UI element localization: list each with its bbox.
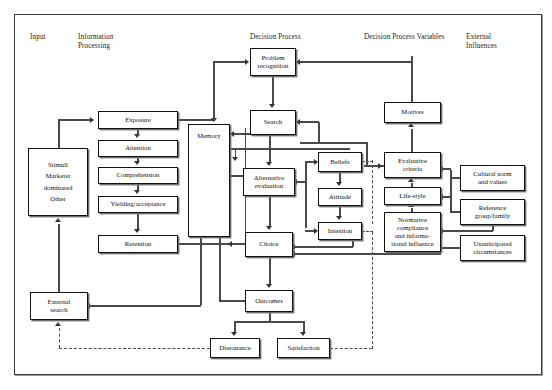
node-unanticipated-circumstances[interactable]: Unanticipated circumstances bbox=[460, 235, 525, 261]
node-outcomes-label: Outcomes bbox=[255, 297, 283, 305]
node-dissonance[interactable]: Dissonance bbox=[210, 338, 260, 358]
line-memory-to-problem-recognition bbox=[213, 62, 214, 120]
arrow-stimuli-to-exposure bbox=[90, 117, 94, 123]
node-retention[interactable]: Retention bbox=[98, 235, 178, 253]
node-alternative-evaluation[interactable]: Alternative evaluation bbox=[243, 168, 295, 196]
node-reference-group-family[interactable]: Reference group/family bbox=[460, 199, 525, 225]
node-reference-group-line-2: group/family bbox=[475, 212, 511, 220]
arrow-evaluative-criteria-to-motives bbox=[408, 123, 414, 127]
node-memory[interactable]: Memory bbox=[188, 124, 230, 237]
arrow-motives-to-problem-recognition bbox=[296, 59, 300, 65]
line-outcomes-loop-up bbox=[219, 232, 220, 301]
dashed-line-satisfaction-up bbox=[372, 232, 373, 349]
line-evaluative-to-search-row bbox=[300, 142, 367, 143]
node-stimuli-line-2: Marketer bbox=[46, 172, 71, 180]
node-cultural-norm-line-2: and values bbox=[478, 178, 507, 186]
line-to-search-right bbox=[318, 122, 319, 143]
node-stimuli[interactable]: Stimuli Marketer dominated Other bbox=[28, 148, 88, 216]
node-satisfaction-label: Satisfaction bbox=[287, 344, 319, 352]
line-yielding-to-retention bbox=[137, 213, 138, 229]
line-external-search-to-stimuli bbox=[58, 224, 59, 292]
dashed-line-dissonance-to-external-search bbox=[59, 348, 210, 349]
node-satisfaction[interactable]: Satisfaction bbox=[277, 338, 330, 358]
node-choice-label: Choice bbox=[259, 240, 278, 248]
arrow-memory-stub-a bbox=[232, 157, 238, 161]
line-evaluative-criteria-to-motives bbox=[411, 129, 412, 152]
column-header-input: Input bbox=[30, 33, 46, 42]
line-memory-in-bottom bbox=[230, 243, 246, 244]
line-choice-to-outcomes bbox=[269, 257, 270, 284]
arrow-into-search bbox=[296, 119, 300, 125]
node-yielding-acceptance[interactable]: Yielding/acceptance bbox=[98, 196, 178, 213]
line-problem-recognition-to-search bbox=[272, 76, 273, 104]
node-alternative-evaluation-line-2: evaluation bbox=[255, 182, 283, 190]
line-stimuli-to-exposure bbox=[58, 119, 90, 120]
column-header-external-influences: External Influences bbox=[466, 33, 497, 51]
line-alternative-evaluation-to-choice bbox=[269, 196, 270, 226]
arrow-attitude-to-intention bbox=[336, 216, 342, 220]
arrow-choice-to-outcomes bbox=[266, 284, 272, 288]
node-problem-recognition[interactable]: Problem recognition bbox=[250, 48, 296, 76]
arrow-into-problem-recognition bbox=[245, 59, 249, 65]
line-reference-to-normative bbox=[441, 230, 493, 231]
dashed-line-into-intention bbox=[362, 231, 373, 232]
line-to-external-search bbox=[88, 305, 201, 306]
column-header-decision-process: Decision Process bbox=[250, 33, 301, 42]
line-outcomes-split bbox=[234, 321, 304, 322]
node-intention[interactable]: Intention bbox=[318, 222, 362, 240]
node-evaluative-criteria[interactable]: Evaluative criteria bbox=[384, 152, 441, 178]
line-to-problem-recognition bbox=[213, 61, 245, 62]
node-intention-label: Intention bbox=[328, 227, 353, 235]
line-attitude-to-intention bbox=[339, 206, 340, 216]
line-search-to-memory bbox=[232, 133, 252, 134]
node-normative-compliance-line-1: Normative bbox=[398, 216, 427, 224]
node-search[interactable]: Search bbox=[250, 110, 296, 135]
arrow-external-search-to-stimuli bbox=[55, 218, 61, 222]
node-comprehension[interactable]: Comprehension bbox=[98, 167, 178, 184]
line-into-search bbox=[298, 121, 319, 122]
dashed-line-to-beliefs bbox=[372, 160, 373, 224]
node-cultural-norm-and-values[interactable]: Cultural norm and values bbox=[460, 165, 525, 191]
node-external-search-line-2: search bbox=[50, 306, 67, 314]
arrow-retention-to-memory bbox=[228, 241, 232, 247]
node-cultural-norm-line-1: Cultural norm bbox=[473, 170, 511, 178]
arrow-attention-to-comprehension bbox=[134, 161, 140, 165]
node-exposure[interactable]: Exposure bbox=[98, 111, 178, 129]
node-beliefs[interactable]: Beliefs bbox=[318, 152, 362, 172]
node-exposure-label: Exposure bbox=[125, 116, 151, 124]
line-evaluative-criteria-up bbox=[366, 142, 367, 166]
node-attitude[interactable]: Attitude bbox=[318, 188, 362, 206]
line-motives-up bbox=[411, 56, 412, 102]
arrow-dashed-into-external-search bbox=[55, 322, 61, 326]
node-evaluative-criteria-line-2: criteria bbox=[403, 165, 422, 173]
line-memory-out-mid bbox=[230, 148, 350, 149]
node-choice[interactable]: Choice bbox=[245, 232, 293, 257]
node-external-search[interactable]: External search bbox=[30, 292, 88, 320]
arrow-yielding-to-retention bbox=[134, 229, 140, 233]
line-unanticipated-left bbox=[441, 247, 460, 248]
node-outcomes[interactable]: Outcomes bbox=[245, 290, 293, 312]
node-normative-compliance-line-4: tional influence bbox=[391, 240, 433, 248]
node-life-style[interactable]: Life-style bbox=[384, 187, 441, 205]
line-exposure-right bbox=[178, 119, 214, 120]
node-life-style-label: Life-style bbox=[399, 192, 425, 200]
arrow-life-style-to-evaluative-criteria bbox=[408, 178, 414, 182]
line-motives-to-problem-recognition bbox=[298, 61, 412, 62]
line-intention-to-choice bbox=[293, 246, 353, 247]
node-attention[interactable]: Attention bbox=[98, 140, 178, 157]
node-motives-label: Motives bbox=[401, 108, 423, 116]
node-evaluative-criteria-line-1: Evaluative bbox=[398, 157, 427, 165]
node-comprehension-label: Comprehension bbox=[116, 171, 159, 179]
node-alternative-evaluation-line-1: Alternative bbox=[254, 174, 285, 182]
arrow-search-to-alternative-evaluation bbox=[266, 162, 272, 166]
node-yielding-acceptance-label: Yielding/acceptance bbox=[110, 200, 165, 208]
line-intention-down bbox=[352, 240, 353, 247]
node-problem-recognition-line-1: Problem bbox=[261, 54, 284, 62]
node-stimuli-line-4: Other bbox=[50, 195, 65, 203]
node-stimuli-line-1: Stimuli bbox=[48, 161, 68, 169]
node-normative-compliance[interactable]: Normative compliance and informa- tional… bbox=[384, 212, 441, 252]
line-cultural-norm-in bbox=[450, 177, 460, 178]
line-outcomes-to-satisfaction bbox=[303, 321, 304, 332]
node-motives[interactable]: Motives bbox=[384, 102, 441, 123]
line-external-bracket bbox=[450, 170, 451, 212]
